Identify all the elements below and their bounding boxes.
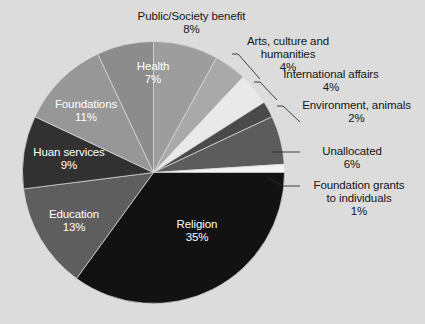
label-health: Health 7%: [113, 60, 193, 86]
label-foundations: Foundations 11%: [36, 98, 136, 124]
label-arts-culture-humanities-line2: humanities: [229, 48, 347, 61]
label-health-pct: 7%: [113, 73, 193, 86]
label-foundation-grants-pct: 1%: [303, 205, 415, 218]
label-environment-animals-name: Environment, animals: [302, 99, 411, 111]
label-environment-animals-pct: 2%: [288, 112, 425, 125]
label-public-society-benefit: Public/Society benefit 8%: [104, 10, 279, 36]
label-education-pct: 13%: [29, 221, 119, 234]
label-foundations-name: Foundations: [55, 98, 117, 110]
pie-chart: Public/Society benefit 8% Arts, culture …: [0, 0, 425, 324]
label-international-affairs-name: International affairs: [283, 68, 379, 80]
label-human-services: Huan services 9%: [13, 146, 125, 172]
label-human-services-name: Huan services: [33, 146, 105, 158]
label-foundation-grants-line2: to individuals: [303, 192, 415, 205]
label-international-affairs-pct: 4%: [265, 81, 397, 94]
label-religion-name: Religion: [177, 218, 218, 230]
label-unallocated-name: Unallocated: [322, 145, 382, 157]
label-environment-animals: Environment, animals 2%: [288, 99, 425, 125]
label-unallocated-pct: 6%: [303, 158, 401, 171]
label-foundation-grants-to-individuals: Foundation grants to individuals 1%: [303, 179, 415, 219]
label-unallocated: Unallocated 6%: [303, 145, 401, 171]
label-religion: Religion 35%: [152, 218, 242, 244]
label-health-name: Health: [137, 60, 170, 72]
label-foundation-grants-line1: Foundation grants: [313, 179, 404, 191]
label-education: Education 13%: [29, 208, 119, 234]
label-international-affairs: International affairs 4%: [265, 68, 397, 94]
label-education-name: Education: [49, 208, 99, 220]
label-foundations-pct: 11%: [36, 111, 136, 124]
label-public-society-benefit-name: Public/Society benefit: [138, 10, 246, 22]
label-human-services-pct: 9%: [13, 159, 125, 172]
label-arts-culture-humanities-line1: Arts, culture and: [247, 35, 329, 47]
label-religion-pct: 35%: [152, 231, 242, 244]
